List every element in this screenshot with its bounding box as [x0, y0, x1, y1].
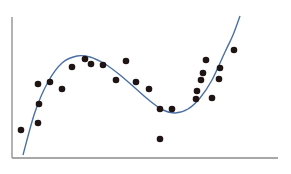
data-point [88, 61, 95, 68]
data-point [82, 56, 89, 63]
data-point [100, 62, 107, 69]
data-points [18, 47, 238, 143]
data-point [231, 47, 238, 54]
data-point [59, 86, 66, 93]
data-point [198, 77, 205, 84]
data-point [113, 77, 120, 84]
data-point [169, 106, 176, 113]
data-point [69, 64, 76, 71]
data-point [35, 81, 42, 88]
data-point [157, 106, 164, 113]
data-point [157, 136, 164, 143]
fit-curve [23, 16, 240, 155]
data-point [209, 95, 216, 102]
data-point [217, 65, 224, 72]
data-point [47, 79, 54, 86]
data-point [133, 79, 140, 86]
data-point [18, 127, 25, 134]
data-point [194, 88, 201, 95]
scatter-chart [0, 0, 291, 174]
data-point [193, 96, 200, 103]
data-point [36, 101, 43, 108]
data-point [35, 120, 42, 127]
data-point [123, 58, 130, 65]
data-point [216, 76, 223, 83]
data-point [203, 57, 210, 64]
data-point [146, 86, 153, 93]
data-point [200, 70, 207, 77]
